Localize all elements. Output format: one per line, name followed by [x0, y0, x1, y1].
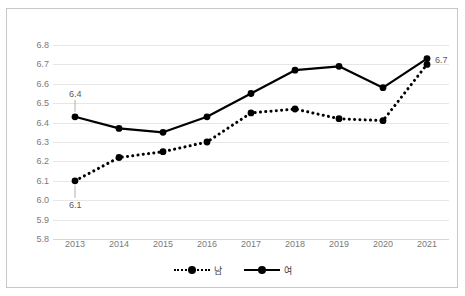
series-line-남: [75, 64, 427, 180]
data-point: [424, 61, 431, 68]
legend-key-icon: [244, 265, 280, 275]
x-tick-label: 2021: [417, 239, 437, 249]
x-tick-label: 2018: [285, 239, 305, 249]
legend-entry-여[interactable]: 여: [244, 264, 292, 277]
data-point: [292, 67, 299, 74]
legend-label: 남: [214, 264, 222, 277]
data-point: [160, 148, 167, 155]
data-label: 6.7: [435, 55, 448, 65]
toolbar-strip: [0, 0, 465, 6]
data-point: [204, 113, 211, 120]
chart-legend: 남여: [7, 259, 459, 281]
data-point: [72, 113, 79, 120]
x-axis: 201320142015201620172018201920202021: [53, 235, 449, 255]
legend-entry-남[interactable]: 남: [174, 264, 222, 277]
x-tick-label: 2014: [109, 239, 129, 249]
data-point: [204, 139, 211, 146]
data-point: [248, 90, 255, 97]
data-point: [72, 177, 79, 184]
data-point: [160, 129, 167, 136]
legend-key-icon: [174, 265, 210, 275]
x-tick-label: 2015: [153, 239, 173, 249]
data-point: [248, 110, 255, 117]
x-tick-label: 2019: [329, 239, 349, 249]
data-point: [116, 125, 123, 132]
data-point: [292, 106, 299, 113]
data-point: [116, 154, 123, 161]
x-tick-label: 2016: [197, 239, 217, 249]
x-tick-label: 2020: [373, 239, 393, 249]
chart-plot-area: 6.86.76.66.56.46.36.26.16.05.95.8 6.46.1…: [7, 9, 459, 289]
data-label: 6.4: [69, 89, 82, 99]
x-tick-label: 2017: [241, 239, 261, 249]
data-point: [336, 115, 343, 122]
data-label: 6.1: [69, 200, 82, 210]
x-tick-label: 2013: [65, 239, 85, 249]
legend-label: 여: [284, 264, 292, 277]
data-point: [380, 84, 387, 91]
chart-frame: 6.86.76.66.56.46.36.26.16.05.95.8 6.46.1…: [6, 8, 458, 288]
data-point: [424, 55, 431, 62]
data-point: [380, 117, 387, 124]
data-point: [336, 63, 343, 70]
